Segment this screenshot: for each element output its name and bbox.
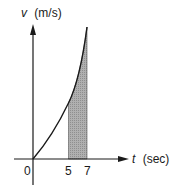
tick-label-7: 7 (84, 164, 91, 178)
y-axis-arrow-icon (30, 24, 36, 35)
x-axis-arrow-icon (118, 156, 129, 162)
velocity-time-diagram: v (m/s) t (sec) 0 5 7 (0, 0, 179, 194)
x-axis-label: t (sec) (132, 152, 169, 166)
origin-label: 0 (24, 164, 31, 178)
tick-label-5: 5 (65, 164, 72, 178)
y-axis-label: v (m/s) (21, 6, 62, 20)
